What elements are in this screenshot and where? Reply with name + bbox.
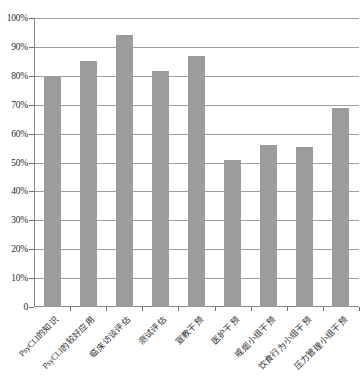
- bar: [152, 71, 169, 307]
- bar: [260, 145, 277, 307]
- x-axis-tick-mark: [323, 307, 324, 311]
- bar: [116, 35, 133, 307]
- x-axis-tick-mark: [142, 307, 143, 311]
- bar: [296, 147, 313, 307]
- bar-chart: 100%90%80%70%60%50%40%30%20%10%0 PsyCLI的…: [0, 0, 364, 391]
- x-axis-tick-mark: [70, 307, 71, 311]
- x-axis-tick-mark: [251, 307, 252, 311]
- x-axis-tick-mark: [287, 307, 288, 311]
- bar: [332, 108, 349, 307]
- x-axis-tick-mark: [106, 307, 107, 311]
- bars-layer: [0, 0, 364, 391]
- bar: [44, 76, 61, 307]
- x-axis-tick-mark: [178, 307, 179, 311]
- bar: [188, 56, 205, 307]
- bar: [224, 160, 241, 307]
- x-axis-tick-mark: [359, 307, 360, 311]
- bar: [80, 61, 97, 307]
- x-axis-tick-mark: [215, 307, 216, 311]
